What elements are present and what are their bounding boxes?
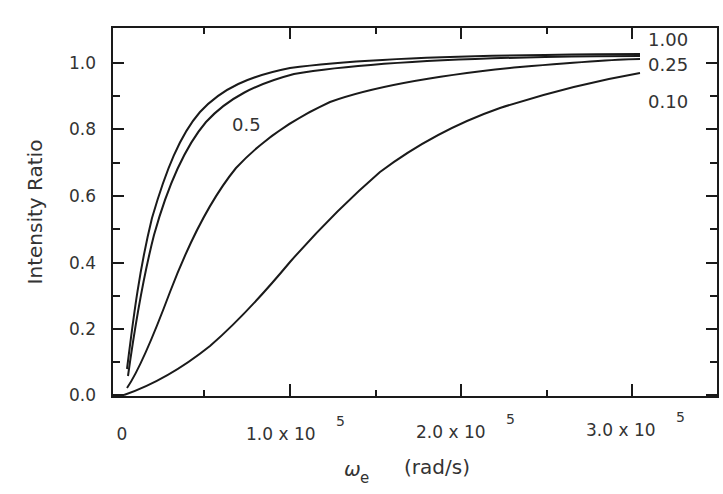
x-axis-title: ω e (rad/s) [344, 455, 470, 487]
curve-label-0.5: 0.5 [232, 114, 261, 135]
curve-1.00 [127, 54, 640, 369]
y-axis-ticks [112, 63, 718, 395]
svg-text:5: 5 [506, 411, 515, 427]
x-tick-2e5: 2.0 x 10 5 [416, 411, 515, 442]
chart: 0.0 0.2 0.4 0.6 0.8 1.0 0 1.0 x 10 5 2.0… [0, 0, 723, 494]
curve-0.10 [124, 73, 640, 395]
y-tick-labels: 0.0 0.2 0.4 0.6 0.8 1.0 [69, 53, 96, 405]
svg-text:3.0 x 10: 3.0 x 10 [586, 420, 656, 440]
y-tick-1.0: 1.0 [69, 53, 96, 73]
curves [124, 54, 640, 395]
y-tick-0.6: 0.6 [69, 186, 96, 206]
svg-text:ω: ω [344, 457, 361, 481]
svg-text:e: e [360, 469, 369, 487]
x-tick-labels: 0 1.0 x 10 5 2.0 x 10 5 3.0 x 10 5 [117, 409, 685, 444]
y-tick-0.8: 0.8 [69, 119, 96, 139]
svg-text:(rad/s): (rad/s) [404, 455, 470, 479]
y-tick-0.2: 0.2 [69, 319, 96, 339]
curve-label-0.25: 0.25 [648, 54, 688, 75]
y-axis-title: Intensity Ratio [23, 140, 47, 285]
y-tick-0.4: 0.4 [69, 253, 96, 273]
curve-label-1.00: 1.00 [648, 29, 688, 50]
svg-text:5: 5 [676, 409, 685, 425]
x-tick-0: 0 [117, 424, 128, 444]
svg-text:1.0 x 10: 1.0 x 10 [246, 424, 316, 444]
plot-frame [112, 27, 718, 397]
curve-label-0.10: 0.10 [648, 91, 688, 112]
svg-text:5: 5 [336, 413, 345, 429]
x-tick-3e5: 3.0 x 10 5 [586, 409, 685, 440]
x-tick-1e5: 1.0 x 10 5 [246, 413, 345, 444]
curve-labels: 1.00 0.25 0.10 0.5 [232, 29, 688, 135]
y-tick-0: 0.0 [69, 385, 96, 405]
svg-text:2.0 x 10: 2.0 x 10 [416, 422, 486, 442]
